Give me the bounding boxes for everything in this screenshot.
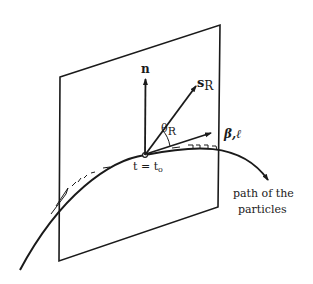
- beta-l-vector-arrow: [146, 133, 211, 154]
- normal-label: n: [141, 62, 150, 76]
- time-label: t = to: [133, 160, 163, 174]
- path-label-line2: particles: [238, 203, 287, 216]
- theta-r-label: θR: [161, 122, 177, 138]
- normal-vector-arrow: [145, 79, 146, 155]
- reference-plane: [59, 25, 220, 261]
- beta-l-label: β,ℓ: [223, 127, 241, 141]
- time-subscript: o: [158, 165, 163, 174]
- particle-path-diagram: n sR θR β,ℓ t = to path of the particles: [0, 0, 313, 284]
- time-main: t = t: [133, 160, 159, 173]
- theta-subscript: R: [168, 125, 177, 138]
- s-r-main: s: [197, 75, 204, 90]
- s-r-label: sR: [197, 75, 214, 93]
- s-r-subscript: R: [204, 79, 214, 93]
- path-label-line1: path of the: [233, 187, 294, 200]
